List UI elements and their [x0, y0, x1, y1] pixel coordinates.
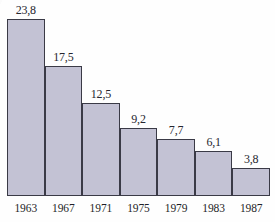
bar-group: 23,8 — [7, 19, 45, 196]
bar-group: 12,5 — [82, 103, 120, 196]
x-tick-1983: 1983 — [195, 202, 233, 214]
bar-group: 3,8 — [232, 168, 270, 196]
bar-value-label: 7,7 — [169, 123, 183, 138]
bar-1975 — [120, 128, 158, 196]
bar-value-label: 17,5 — [53, 50, 73, 65]
x-tick-1971: 1971 — [82, 202, 120, 214]
bar-group: 6,1 — [195, 151, 233, 196]
bar-group: 17,5 — [45, 66, 83, 196]
bar-group: 7,7 — [157, 139, 195, 196]
x-tick-1979: 1979 — [157, 202, 195, 214]
bar-1971 — [82, 103, 120, 196]
bar-value-label: 9,2 — [131, 112, 145, 127]
bar-value-label: 6,1 — [206, 135, 220, 150]
bar-1967 — [45, 66, 83, 196]
bar-1983 — [195, 151, 233, 196]
bar-chart-screenshot: 23,817,512,59,27,76,13,8 196319671971197… — [0, 0, 275, 222]
bar-1979 — [157, 139, 195, 196]
x-tick-1975: 1975 — [120, 202, 158, 214]
bar-value-label: 12,5 — [91, 87, 111, 102]
chart-plot-area: 23,817,512,59,27,76,13,8 196319671971197… — [0, 0, 275, 222]
bar-1987 — [232, 168, 270, 196]
bar-value-label: 23,8 — [16, 3, 36, 18]
x-tick-1967: 1967 — [45, 202, 83, 214]
x-axis-line — [7, 195, 270, 196]
chart-title-cropped — [0, 0, 275, 1]
bar-1963 — [7, 19, 45, 196]
bar-group: 9,2 — [120, 128, 158, 196]
bar-value-label: 3,8 — [244, 152, 258, 167]
x-tick-1963: 1963 — [7, 202, 45, 214]
x-tick-1987: 1987 — [232, 202, 270, 214]
